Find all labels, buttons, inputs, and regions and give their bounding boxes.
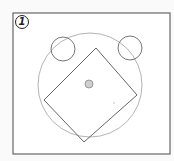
figure-number: 1 xyxy=(19,17,26,27)
diagram-figure: 1 xyxy=(0,0,174,161)
figure-number-badge: 1 xyxy=(15,15,29,29)
center-dot xyxy=(85,80,93,88)
small-speck xyxy=(113,102,115,104)
